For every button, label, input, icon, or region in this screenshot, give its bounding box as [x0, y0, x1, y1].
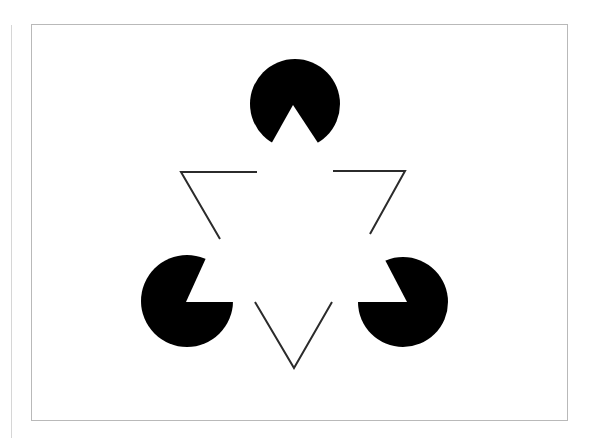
outline-top-right-corner [333, 171, 405, 234]
outline-top-left-corner [181, 172, 257, 239]
pacman-inducers [141, 59, 448, 347]
kanizsa-triangle-figure [0, 0, 601, 438]
pacman-inducer-top [245, 59, 348, 191]
outline-bottom-corner [255, 302, 332, 368]
pacman-inducer-bottom-right [308, 214, 448, 347]
